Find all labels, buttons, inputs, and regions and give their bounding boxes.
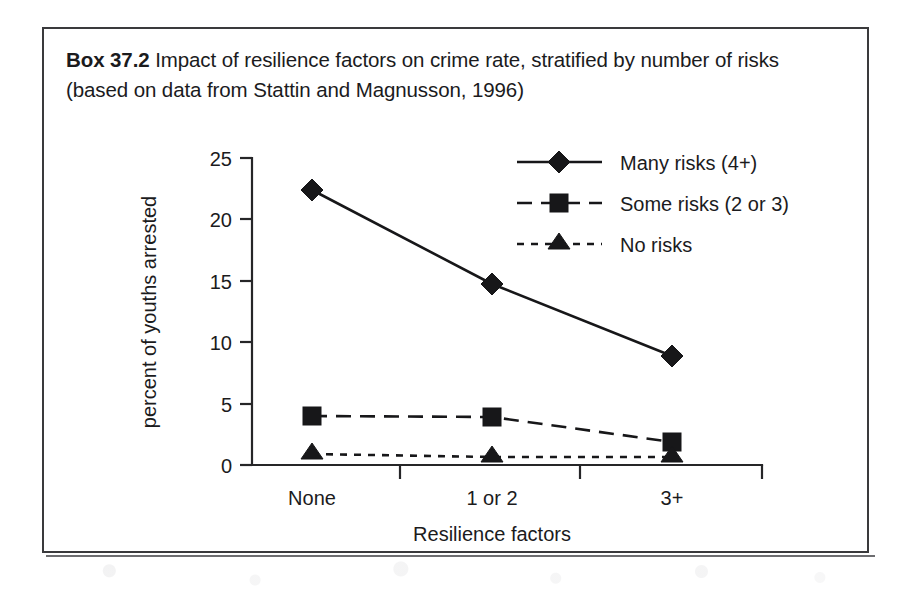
y-tick-label-10: 10 xyxy=(210,332,232,354)
x-tick-label-3plus: 3+ xyxy=(661,487,684,509)
data-point-no-risks-1or2 xyxy=(481,446,503,462)
series-no-risks xyxy=(301,443,683,462)
y-axis-title: percent of youths arrested xyxy=(138,196,160,428)
legend-label-no-risks: No risks xyxy=(620,234,692,256)
x-axis-title: Resilience factors xyxy=(413,523,571,545)
legend-label-many-risks: Many risks (4+) xyxy=(620,152,757,174)
legend-label-some-risks: Some risks (2 or 3) xyxy=(620,193,789,215)
legend-marker-triangle-icon xyxy=(548,233,570,249)
legend-item-many-risks: Many risks (4+) xyxy=(517,151,757,174)
chart-legend: Many risks (4+) Some risks (2 or 3) No r… xyxy=(517,151,789,256)
y-axis: 25 20 15 10 5 0 percent of youths arrest… xyxy=(138,148,252,477)
y-tick-label-20: 20 xyxy=(210,209,232,231)
y-tick-label-0: 0 xyxy=(221,455,232,477)
y-tick-label-5: 5 xyxy=(221,394,232,416)
x-tick-label-1or2: 1 or 2 xyxy=(466,487,517,509)
data-point-many-risks-3plus xyxy=(661,345,683,367)
legend-item-some-risks: Some risks (2 or 3) xyxy=(517,193,789,215)
figure-box: Box 37.2 Impact of resilience factors on… xyxy=(42,27,869,553)
x-tick-label-none: None xyxy=(288,487,336,509)
data-point-some-risks-none xyxy=(303,407,321,425)
chart-plot-area: 25 20 15 10 5 0 percent of youths arrest… xyxy=(44,29,871,555)
data-point-many-risks-none xyxy=(301,179,323,201)
data-point-some-risks-1or2 xyxy=(483,408,501,426)
legend-marker-diamond-icon xyxy=(548,151,570,173)
y-tick-label-25: 25 xyxy=(210,148,232,170)
series-some-risks xyxy=(303,407,681,451)
x-axis: None 1 or 2 3+ Resilience factors xyxy=(252,465,762,545)
y-tick-label-15: 15 xyxy=(210,271,232,293)
legend-marker-square-icon xyxy=(550,194,568,212)
data-point-no-risks-none xyxy=(301,443,323,459)
legend-item-no-risks: No risks xyxy=(517,233,692,256)
data-point-many-risks-1or2 xyxy=(481,273,503,295)
scan-artifact xyxy=(0,556,911,593)
